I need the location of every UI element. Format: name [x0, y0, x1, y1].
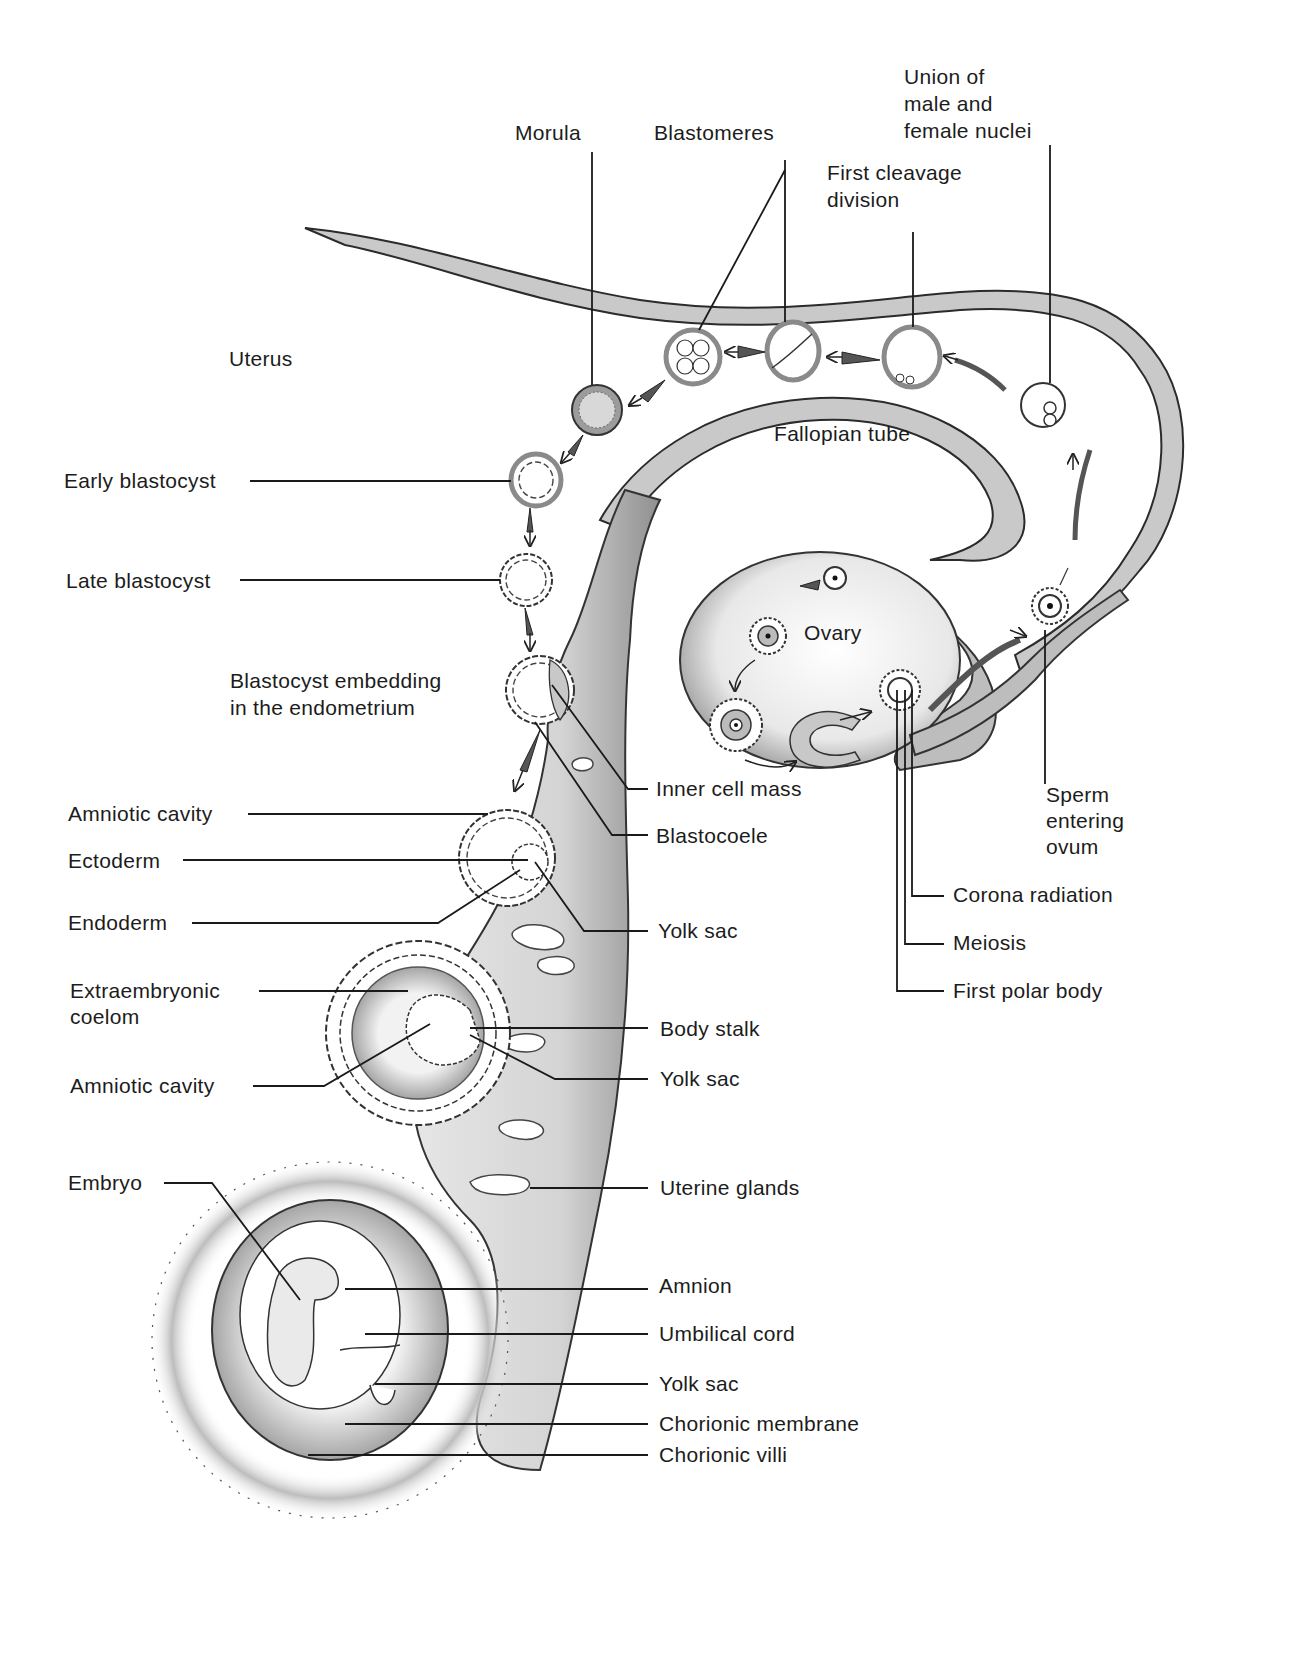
label-union-line1: Union of [904, 65, 985, 88]
label-fallopian-tube: Fallopian tube [774, 422, 910, 445]
label-ectoderm: Ectoderm [68, 849, 160, 872]
label-umbilical-cord: Umbilical cord [659, 1322, 795, 1345]
label-sperm-line3: ovum [1046, 835, 1099, 858]
label-embedding-line2: in the endometrium [230, 696, 415, 719]
label-yolk-sac-1: Yolk sac [658, 919, 738, 942]
embryo-development-diagram: Uterus Fallopian tube Ovary Morula Blast… [0, 0, 1289, 1676]
label-inner-cell-mass: Inner cell mass [656, 777, 802, 800]
label-endoderm: Endoderm [68, 911, 167, 934]
late-blastocyst-cell [500, 554, 552, 606]
label-uterine-glands: Uterine glands [660, 1176, 800, 1199]
label-sperm-line1: Sperm [1046, 783, 1109, 806]
label-late-blastocyst: Late blastocyst [66, 569, 211, 592]
label-union-line3: female nuclei [904, 119, 1032, 142]
uterine-gland [572, 758, 593, 771]
label-yolk-sac-2: Yolk sac [660, 1067, 740, 1090]
label-body-stalk: Body stalk [660, 1017, 760, 1040]
label-union-line2: male and [904, 92, 993, 115]
label-chorionic-villi: Chorionic villi [659, 1443, 787, 1466]
label-amnion: Amnion [659, 1274, 732, 1297]
label-amniotic-cavity-2: Amniotic cavity [70, 1074, 215, 1097]
label-ovary: Ovary [804, 621, 862, 644]
label-amniotic-cavity-1: Amniotic cavity [68, 802, 213, 825]
label-yolk-sac-3: Yolk sac [659, 1372, 739, 1395]
label-extraembryonic-line1: Extraembryonic [70, 979, 220, 1002]
label-morula: Morula [515, 121, 581, 144]
label-uterus: Uterus [229, 347, 293, 370]
label-embryo: Embryo [68, 1171, 142, 1194]
zygote-cell [1021, 383, 1065, 427]
label-embedding-line1: Blastocyst embedding [230, 669, 441, 692]
label-first-polar-body: First polar body [953, 979, 1103, 1002]
label-early-blastocyst: Early blastocyst [64, 469, 216, 492]
label-extraembryonic-line2: coelom [70, 1005, 140, 1028]
label-blastocoele: Blastocoele [656, 824, 768, 847]
amnion-cavity [240, 1221, 400, 1409]
label-corona-radiation: Corona radiation [953, 883, 1113, 906]
label-sperm-line2: entering [1046, 809, 1124, 832]
label-first-cleavage-line1: First cleavage [827, 161, 962, 184]
uterine-gland [538, 957, 575, 975]
label-blastomeres: Blastomeres [654, 121, 774, 144]
label-meiosis: Meiosis [953, 931, 1026, 954]
label-first-cleavage-line2: division [827, 188, 899, 211]
label-chorionic-membrane: Chorionic membrane [659, 1412, 859, 1435]
